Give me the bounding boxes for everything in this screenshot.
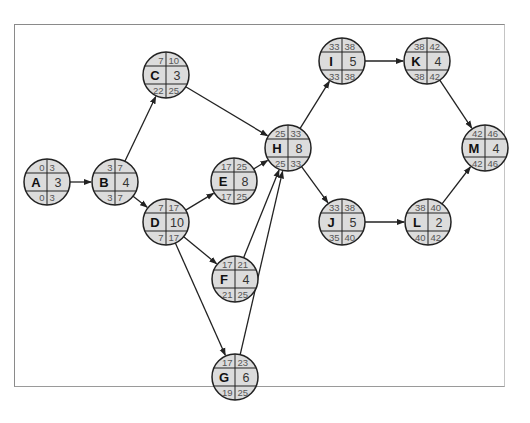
node-i: 3338I53338 (319, 38, 365, 84)
node-b: 37B437 (92, 159, 138, 205)
early-finish: 7 (118, 162, 123, 173)
early-finish: 42 (430, 41, 441, 52)
duration: 3 (55, 176, 62, 190)
late-start: 25 (275, 158, 286, 169)
node-g: 1723G61925 (212, 354, 258, 400)
late-start: 42 (472, 158, 483, 169)
node-j: 3338J53540 (319, 199, 365, 245)
activity-label: K (411, 54, 421, 69)
early-start: 42 (472, 128, 483, 139)
early-start: 33 (329, 41, 340, 52)
late-start: 19 (222, 387, 233, 398)
early-start: 7 (158, 55, 163, 66)
activity-label: J (327, 215, 334, 230)
duration: 8 (296, 142, 303, 156)
late-start: 3 (107, 192, 112, 203)
node-c: 710C32225 (143, 52, 189, 98)
duration: 4 (435, 55, 442, 69)
edge-d-f (184, 237, 217, 264)
late-finish: 25 (237, 191, 248, 202)
early-start: 17 (222, 357, 233, 368)
early-finish: 33 (291, 128, 302, 139)
early-start: 38 (414, 41, 425, 52)
late-start: 22 (153, 85, 164, 96)
late-finish: 25 (238, 387, 249, 398)
activity-label: M (469, 141, 480, 156)
edge-b-d (133, 196, 147, 207)
edge-d-g (175, 243, 225, 355)
duration: 5 (350, 216, 357, 230)
late-start: 35 (329, 232, 340, 243)
early-start: 7 (158, 202, 163, 213)
early-finish: 23 (238, 357, 249, 368)
late-start: 38 (414, 71, 425, 82)
node-l: 3840L24042 (405, 199, 451, 245)
duration: 3 (174, 69, 181, 83)
early-finish: 21 (238, 259, 249, 270)
network-diagram: 03A30337B437710C32225717D107171725E81725… (0, 0, 530, 423)
duration: 4 (243, 273, 250, 287)
late-finish: 17 (169, 232, 180, 243)
late-start: 21 (222, 289, 233, 300)
edge-e-h (254, 161, 268, 169)
late-finish: 42 (431, 232, 442, 243)
node-h: 2533H82533 (265, 125, 311, 171)
node-f: 1721F42125 (212, 256, 258, 302)
late-finish: 25 (169, 85, 180, 96)
duration: 8 (242, 175, 249, 189)
edge-l-m (442, 167, 470, 204)
duration: 6 (243, 371, 250, 385)
activity-label: C (150, 68, 160, 83)
late-finish: 33 (291, 158, 302, 169)
early-start: 17 (222, 259, 233, 270)
activity-label: A (31, 175, 41, 190)
late-finish: 25 (238, 289, 249, 300)
node-e: 1725E81725 (211, 158, 257, 204)
edge-c-h (186, 87, 268, 136)
activity-label: E (219, 174, 228, 189)
early-start: 38 (415, 202, 426, 213)
activity-label: D (150, 215, 159, 230)
activity-label: H (272, 141, 281, 156)
late-start: 40 (415, 232, 426, 243)
duration: 4 (493, 142, 500, 156)
edge-b-c (125, 97, 156, 162)
early-finish: 25 (237, 161, 248, 172)
early-start: 3 (107, 162, 112, 173)
early-finish: 46 (488, 128, 499, 139)
duration: 5 (350, 55, 357, 69)
early-finish: 38 (345, 41, 356, 52)
edge-k-m (440, 80, 472, 128)
early-finish: 17 (169, 202, 180, 213)
node-a: 03A303 (24, 159, 70, 205)
activity-label: L (413, 215, 421, 230)
late-finish: 40 (345, 232, 356, 243)
early-finish: 3 (50, 162, 55, 173)
late-finish: 42 (430, 71, 441, 82)
early-finish: 38 (345, 202, 356, 213)
duration: 2 (436, 216, 443, 230)
late-finish: 3 (50, 192, 55, 203)
node-k: 3842K43842 (404, 38, 450, 84)
early-finish: 40 (431, 202, 442, 213)
node-d: 717D10717 (143, 199, 189, 245)
late-start: 0 (39, 192, 44, 203)
late-start: 33 (329, 71, 340, 82)
late-finish: 46 (488, 158, 499, 169)
early-start: 17 (221, 161, 232, 172)
early-start: 25 (275, 128, 286, 139)
late-start: 17 (221, 191, 232, 202)
activity-label: B (99, 175, 108, 190)
early-finish: 10 (169, 55, 180, 66)
duration: 10 (170, 216, 184, 230)
nodes-layer: 03A30337B437710C32225717D107171725E81725… (24, 38, 508, 400)
late-finish: 38 (345, 71, 356, 82)
activity-label: G (219, 370, 229, 385)
early-start: 0 (39, 162, 44, 173)
early-start: 33 (329, 202, 340, 213)
node-m: 4246M44246 (462, 125, 508, 171)
late-start: 7 (158, 232, 163, 243)
edge-h-j (302, 167, 328, 203)
activity-label: I (329, 54, 333, 69)
late-finish: 7 (118, 192, 123, 203)
